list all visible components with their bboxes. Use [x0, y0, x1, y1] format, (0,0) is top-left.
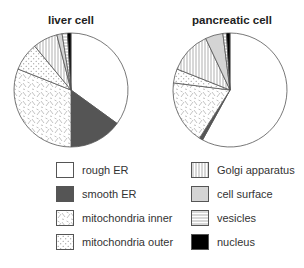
vesicles-swatch-icon — [191, 210, 209, 226]
nucleus-swatch-icon — [191, 234, 209, 250]
legend-label: cell surface — [217, 188, 273, 200]
legend-item-vesicles: vesicles — [191, 209, 256, 227]
legend-item-mitochondria-inner: mitochondria inner — [56, 209, 173, 227]
legend-label: vesicles — [217, 212, 256, 224]
legend-label: rough ER — [82, 164, 128, 176]
pancreas-pie-chart — [173, 33, 287, 147]
mitochondria-outer-swatch-icon — [56, 234, 74, 250]
legend-item-cell-surface: cell surface — [191, 185, 273, 203]
legend-item-golgi: Golgi apparatus — [191, 161, 295, 179]
legend-label: mitochondria inner — [82, 212, 173, 224]
legend-item-nucleus: nucleus — [191, 233, 255, 251]
smooth-er-swatch-icon — [56, 186, 74, 202]
mitochondria-inner-swatch-icon — [56, 210, 74, 226]
legend-label: mitochondria outer — [82, 236, 173, 248]
legend-label: Golgi apparatus — [217, 164, 295, 176]
legend-label: smooth ER — [82, 188, 136, 200]
cell-surface-swatch-icon — [191, 186, 209, 202]
pie-charts-canvas — [0, 0, 304, 268]
liver-pie-chart — [14, 33, 128, 147]
rough-er-swatch-icon — [56, 162, 74, 178]
legend-label: nucleus — [217, 236, 255, 248]
legend-item-mitochondria-outer: mitochondria outer — [56, 233, 173, 251]
golgi-swatch-icon — [191, 162, 209, 178]
legend-item-smooth-er: smooth ER — [56, 185, 136, 203]
legend-item-rough-er: rough ER — [56, 161, 128, 179]
